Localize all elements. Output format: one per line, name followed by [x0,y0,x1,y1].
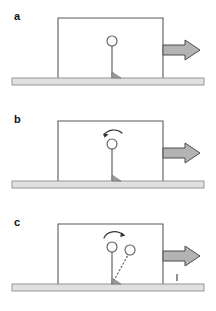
pendulum-bob [107,36,117,46]
inverted-pendulum-figure: a [0,0,216,311]
rotation-arrow-ccw [104,232,125,238]
hinge-pivot [112,72,121,78]
ground-bar [12,181,204,188]
ground-bar [12,78,204,85]
panel-b: b [0,103,216,207]
pendulum-bob [107,242,117,252]
panel-a-drawing [0,0,216,104]
cart-outline [58,224,163,284]
ground-bar [12,284,204,291]
force-arrow-right [163,143,200,163]
rotation-arrow-ccw [103,130,122,138]
cart-outline [58,18,163,78]
panel-b-drawing [0,103,216,207]
force-arrow-right [163,40,200,60]
panel-c-drawing [0,206,216,310]
panel-a: a [0,0,216,104]
pendulum-bob [107,139,117,149]
panel-c: c [0,206,216,310]
hinge-pivot [112,278,121,284]
force-arrow-right [163,246,200,266]
pendulum-bob-displaced [125,245,135,255]
hinge-pivot [112,175,121,181]
